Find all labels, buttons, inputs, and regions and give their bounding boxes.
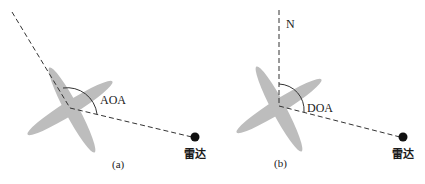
doa-label: DOA bbox=[307, 101, 333, 115]
radar-dot-a bbox=[191, 133, 200, 142]
diagram-canvas: AOA 雷达 (a) N DOA 雷达 (b) bbox=[0, 0, 425, 184]
panel-b: N DOA 雷达 (b) bbox=[233, 10, 414, 170]
panel-a: AOA 雷达 (a) bbox=[12, 12, 206, 171]
radar-label-a: 雷达 bbox=[184, 147, 206, 161]
radar-label-b: 雷达 bbox=[392, 147, 414, 161]
caption-b: (b) bbox=[274, 157, 287, 170]
aircraft-shape-a bbox=[24, 64, 116, 155]
aoa-label: AOA bbox=[100, 93, 126, 107]
radar-dot-b bbox=[399, 133, 408, 142]
caption-a: (a) bbox=[112, 158, 125, 171]
north-label: N bbox=[286, 17, 295, 31]
